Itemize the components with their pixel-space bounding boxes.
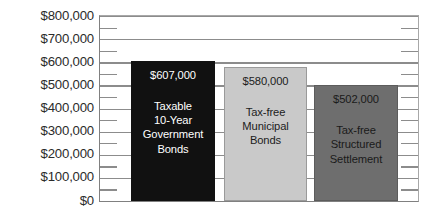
plot-area: $607,000Taxable10-YearGovernmentBonds$58… xyxy=(99,15,419,202)
bar-category-line: Settlement xyxy=(330,152,382,166)
bar-chart: $800,000$700,000$600,000$500,000$400,000… xyxy=(0,0,439,219)
bar-category-label: Tax-freeStructuredSettlement xyxy=(330,123,382,166)
bar-category-label: Taxable10-YearGovernmentBonds xyxy=(143,99,204,156)
bar-value-label: $607,000 xyxy=(150,69,196,82)
y-axis-tick-label: $600,000 xyxy=(0,55,94,68)
y-axis-tick-label: $700,000 xyxy=(0,32,94,45)
bar-category-line: Structured xyxy=(330,137,382,151)
y-axis-tick-label: $100,000 xyxy=(0,170,94,183)
bar-category-line: Bonds xyxy=(143,142,204,156)
bars-layer: $607,000Taxable10-YearGovernmentBonds$58… xyxy=(100,16,418,201)
bar-category-line: 10-Year xyxy=(143,113,204,127)
bar-3: $502,000Tax-freeStructuredSettlement xyxy=(314,85,398,201)
y-axis-tick-label: $0 xyxy=(0,194,94,207)
bar-value-label: $502,000 xyxy=(333,93,379,106)
bar-category-line: Government xyxy=(143,127,204,141)
bar-category-line: Municipal xyxy=(242,119,288,133)
bar-2: $580,000Tax-freeMunicipalBonds xyxy=(224,67,307,201)
y-axis-tick-label: $300,000 xyxy=(0,124,94,137)
y-axis-tick-label: $400,000 xyxy=(0,101,94,114)
bar-category-line: Bonds xyxy=(242,133,288,147)
y-axis-tick-label: $200,000 xyxy=(0,147,94,160)
bar-value-label: $580,000 xyxy=(243,75,289,88)
bar-1: $607,000Taxable10-YearGovernmentBonds xyxy=(131,61,215,201)
bar-category-label: Tax-freeMunicipalBonds xyxy=(242,105,288,148)
y-axis-tick-label: $800,000 xyxy=(0,9,94,22)
bar-category-line: Tax-free xyxy=(330,123,382,137)
bar-category-line: Taxable xyxy=(143,99,204,113)
y-axis-tick-label: $500,000 xyxy=(0,78,94,91)
bar-category-line: Tax-free xyxy=(242,105,288,119)
y-axis: $800,000$700,000$600,000$500,000$400,000… xyxy=(0,0,97,219)
